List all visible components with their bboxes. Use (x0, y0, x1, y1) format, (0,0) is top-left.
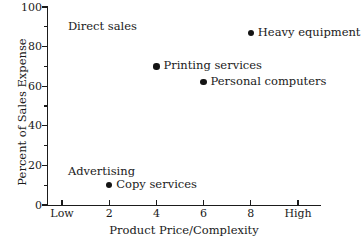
x-axis-tick (109, 200, 110, 206)
y-axis-tick-label: 60 (28, 81, 42, 92)
y-axis-tick (44, 26, 48, 27)
x-axis-tick (203, 200, 204, 206)
y-axis-tick-label: 20 (28, 160, 42, 171)
y-axis-tick (42, 86, 48, 87)
data-point-label: Personal computers (211, 75, 327, 88)
y-axis-tick (44, 185, 48, 186)
data-point-marker (106, 182, 112, 188)
y-axis-tick-label: 80 (28, 41, 42, 52)
data-point-label: Printing services (163, 59, 262, 72)
y-axis-tick (42, 204, 48, 205)
x-axis-tick-label: 6 (200, 208, 207, 220)
data-point-marker (200, 79, 206, 85)
x-axis-tick (156, 200, 157, 206)
y-axis-tick (42, 165, 48, 166)
y-axis-tick (42, 125, 48, 126)
x-axis-tick (61, 200, 62, 206)
x-axis-line (47, 205, 321, 206)
x-axis-tick-label: High (284, 208, 311, 220)
y-axis-tick-label: 40 (28, 120, 42, 131)
y-axis-tick (42, 46, 48, 47)
x-axis-tick-label: 8 (247, 208, 254, 220)
x-axis-tick (250, 200, 251, 206)
x-axis-title: Product Price/Complexity (47, 224, 321, 237)
x-axis-tick-label: 2 (106, 208, 113, 220)
y-axis-tick (44, 145, 48, 146)
data-point-marker (153, 63, 159, 69)
x-axis-tick-label: 4 (153, 208, 160, 220)
chart-annotation-label: Direct sales (68, 20, 137, 33)
data-point-label: Heavy equipment (258, 26, 361, 39)
chart-annotation-label: Advertising (68, 165, 135, 178)
y-axis-tick-label: 100 (21, 2, 42, 13)
y-axis-tick-label: 0 (35, 200, 42, 211)
x-axis-tick (297, 200, 298, 206)
x-axis-tick-label: Low (50, 208, 73, 220)
y-axis-tick (44, 105, 48, 106)
data-point-marker (248, 30, 254, 36)
y-axis-title: Percent of Sales Expense (16, 32, 28, 192)
y-axis-tick (42, 6, 48, 7)
data-point-label: Copy services (116, 178, 197, 191)
y-axis-tick (44, 66, 48, 67)
